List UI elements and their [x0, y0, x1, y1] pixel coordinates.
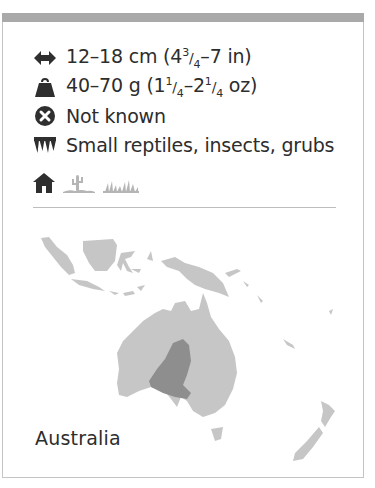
fact-size: 12–18 cm (43/4–7 in): [33, 43, 353, 72]
map-region-label: Australia: [35, 427, 121, 449]
fact-conservation-status: Not known: [33, 101, 353, 130]
grassland-icon: [103, 177, 139, 193]
burrow-home-icon: [33, 173, 55, 193]
diet-text: Small reptiles, insects, grubs: [66, 134, 334, 156]
habitat-icons: [33, 161, 353, 193]
size-text: 12–18 cm (43/4–7 in): [66, 45, 252, 71]
fact-weight: 40–70 g (11/4–21/4 oz): [33, 72, 353, 101]
length-arrows-icon: [33, 47, 57, 69]
desert-cactus-icon: [63, 173, 95, 193]
weight-text: 40–70 g (11/4–21/4 oz): [66, 74, 257, 100]
fact-diet: Small reptiles, insects, grubs: [33, 130, 353, 159]
weight-icon: [33, 76, 57, 98]
facts-list: 12–18 cm (43/4–7 in) 40–70 g (11/4–21/4 …: [33, 43, 353, 193]
teeth-icon: [33, 134, 57, 156]
section-divider: [33, 207, 336, 208]
status-text: Not known: [66, 105, 166, 127]
cross-circle-icon: [33, 105, 57, 127]
species-fact-card: 12–18 cm (43/4–7 in) 40–70 g (11/4–21/4 …: [2, 13, 364, 478]
distribution-map: [23, 221, 343, 461]
card-top-bar: [2, 13, 364, 22]
